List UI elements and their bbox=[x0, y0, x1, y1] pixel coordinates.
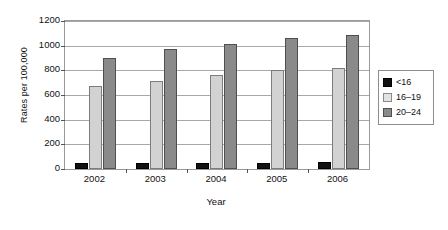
y-axis-tick-label: 1000 bbox=[26, 40, 60, 50]
legend-swatch-icon bbox=[383, 78, 392, 87]
bar bbox=[89, 86, 102, 169]
legend-swatch-icon bbox=[383, 108, 392, 117]
legend-label: 16–19 bbox=[396, 93, 421, 102]
legend-swatch-icon bbox=[383, 93, 392, 102]
bar bbox=[164, 49, 177, 169]
bar bbox=[210, 75, 223, 169]
y-axis-tick-labels: 020040060080010001200 bbox=[24, 0, 60, 230]
legend-item: <16 bbox=[383, 75, 430, 90]
x-axis-title: Year bbox=[64, 196, 368, 207]
x-axis-tick-mark bbox=[247, 169, 248, 173]
x-axis-tick-mark bbox=[308, 169, 309, 173]
bar bbox=[224, 44, 237, 169]
x-axis-tick-mark bbox=[187, 169, 188, 173]
x-axis-tick-label: 2006 bbox=[307, 174, 368, 184]
bar-group bbox=[187, 21, 248, 169]
y-axis-tick-label: 600 bbox=[26, 89, 60, 99]
y-axis-tick-label: 1200 bbox=[26, 15, 60, 25]
y-axis-tick-label: 200 bbox=[26, 138, 60, 148]
bar-group bbox=[247, 21, 308, 169]
plot-area bbox=[64, 20, 370, 170]
bar bbox=[285, 38, 298, 169]
bar bbox=[196, 163, 209, 169]
bar-group bbox=[65, 21, 126, 169]
bar bbox=[136, 163, 149, 169]
legend-item: 20–24 bbox=[383, 105, 430, 120]
chart-legend: <1616–1920–24 bbox=[378, 70, 434, 125]
x-axis-tick-label: 2002 bbox=[64, 174, 125, 184]
bar bbox=[318, 162, 331, 169]
bar-group bbox=[308, 21, 369, 169]
bar bbox=[271, 70, 284, 169]
bar bbox=[103, 58, 116, 169]
legend-label: 20–24 bbox=[396, 108, 421, 117]
y-axis-tick-label: 400 bbox=[26, 114, 60, 124]
y-axis-tick-label: 0 bbox=[26, 163, 60, 173]
bar bbox=[75, 163, 88, 169]
legend-label: <16 bbox=[396, 78, 411, 87]
bar bbox=[257, 163, 270, 169]
bar-chart: Rates per 100,000 020040060080010001200 … bbox=[0, 0, 448, 230]
bar bbox=[332, 68, 345, 169]
x-axis-tick-mark bbox=[126, 169, 127, 173]
legend-item: 16–19 bbox=[383, 90, 430, 105]
x-axis-tick-label: 2005 bbox=[246, 174, 307, 184]
x-axis-tick-label: 2003 bbox=[125, 174, 186, 184]
bar-group bbox=[126, 21, 187, 169]
bar bbox=[150, 81, 163, 169]
x-axis-tick-label: 2004 bbox=[186, 174, 247, 184]
y-axis-tick-label: 800 bbox=[26, 64, 60, 74]
bar bbox=[346, 35, 359, 169]
y-axis-tick-mark bbox=[61, 169, 65, 170]
